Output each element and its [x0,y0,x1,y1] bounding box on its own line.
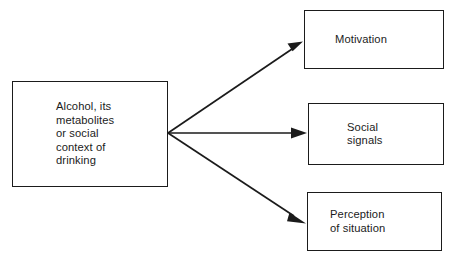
node-motivation-label: Motivation [305,33,387,46]
diagram-canvas: Alcohol, its metabolites or social conte… [0,0,452,265]
edge-source-perception [168,133,306,224]
edge-source-motivation [168,42,303,134]
node-social-label: Social signals [309,121,383,148]
node-source: Alcohol, its metabolites or social conte… [12,81,168,187]
node-source-label: Alcohol, its metabolites or social conte… [13,100,114,167]
node-social: Social signals [308,103,444,165]
node-motivation: Motivation [304,10,444,69]
node-perception-label: Perception of situation [308,208,385,235]
edge-source-social [168,128,307,139]
node-perception: Perception of situation [307,192,442,251]
